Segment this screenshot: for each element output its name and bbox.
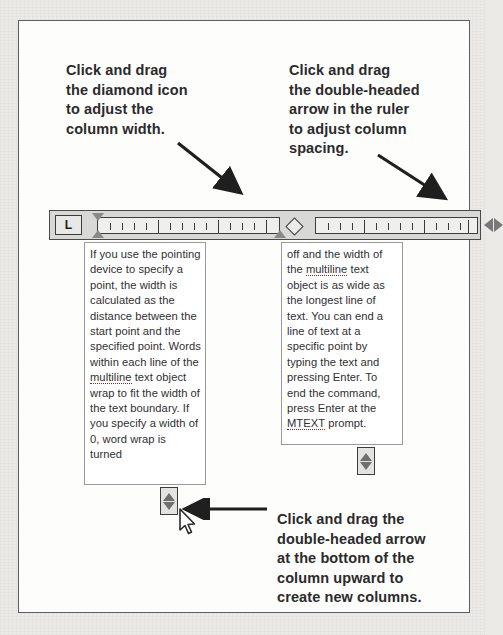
misspelled-word-multiline: multiline xyxy=(90,371,132,384)
mouse-cursor-icon xyxy=(178,508,200,538)
arrow-down-head xyxy=(360,462,372,470)
ruler[interactable]: L xyxy=(49,210,481,240)
column-right-text-part3: prompt. xyxy=(325,417,366,429)
column-height-handle-left[interactable] xyxy=(160,487,178,515)
arrow-up-head xyxy=(360,453,372,461)
callout-column-width: Click and drag the diamond icon to adjus… xyxy=(66,61,256,139)
callout-create-new-columns: Click and drag the double-headed arrow a… xyxy=(277,510,482,608)
leader-arrow-to-ruler-arrow xyxy=(374,151,459,209)
ruler-track-left[interactable] xyxy=(97,217,280,234)
double-headed-arrow-icon[interactable] xyxy=(484,218,503,232)
arrow-left-head xyxy=(484,218,493,232)
arrow-down-head xyxy=(163,502,175,510)
text-column-right[interactable]: off and the width of the multiline text … xyxy=(281,242,403,445)
misspelled-word-multiline: multiline xyxy=(306,263,348,276)
diamond-icon[interactable] xyxy=(285,217,303,235)
tab-selector-button[interactable]: L xyxy=(55,215,82,235)
text-column-left[interactable]: If you use the pointing device to specif… xyxy=(84,242,206,485)
column-left-text-part2: text object wrap to fit the width of the… xyxy=(90,371,200,460)
ruler-ticks-right xyxy=(316,218,477,233)
column-left-text-part1: If you use the pointing device to specif… xyxy=(90,248,201,368)
first-line-indent-marker[interactable] xyxy=(92,213,104,221)
figure-frame: Click and drag the diamond icon to adjus… xyxy=(18,20,470,613)
ruler-track-right[interactable] xyxy=(315,217,478,234)
column-height-handle-right[interactable] xyxy=(357,447,375,475)
column-right-text-part2: text object is as wide as the longest li… xyxy=(287,263,385,414)
ruler-ticks-left xyxy=(98,218,279,233)
misspelled-word-mtext: MTEXT xyxy=(287,417,325,430)
arrow-right-head xyxy=(494,218,503,232)
left-indent-marker[interactable] xyxy=(92,230,104,238)
arrow-up-head xyxy=(163,493,175,501)
leader-arrow-to-diamond xyxy=(174,139,254,199)
right-indent-marker[interactable] xyxy=(274,230,286,238)
callout-column-spacing: Click and drag the double-headed arrow i… xyxy=(289,61,489,159)
